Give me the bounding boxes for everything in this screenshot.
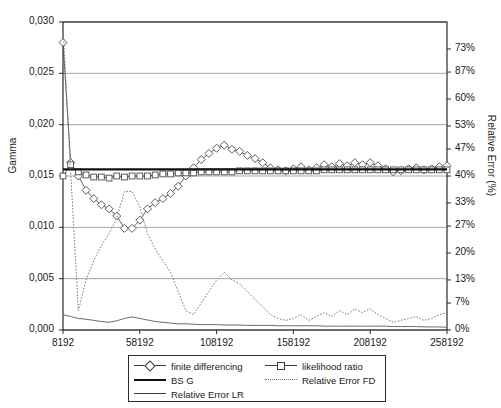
- x-axis-tick-label: 58192: [110, 337, 170, 348]
- x-axis-tick-label: 108192: [187, 337, 247, 348]
- legend-label: Relative Error LR: [171, 389, 244, 400]
- y-axis-right-tick-label: 20%: [455, 246, 495, 257]
- x-axis-tick-label: 158192: [263, 337, 323, 348]
- y-axis-left-tick-label: 0,005: [8, 272, 54, 283]
- data-point-marker: [236, 147, 244, 155]
- data-point-marker: [220, 141, 228, 149]
- data-point-marker: [137, 173, 143, 179]
- legend-key-square-icon: [264, 360, 298, 372]
- data-point-marker: [129, 173, 135, 179]
- legend-label: finite differencing: [171, 361, 243, 372]
- data-point-marker: [366, 159, 374, 167]
- legend-item-relative-error-lr[interactable]: Relative Error LR: [133, 387, 265, 401]
- y-axis-right-tick-label: 33%: [455, 196, 495, 207]
- y-axis-left-tick-label: 0,010: [8, 220, 54, 231]
- legend-row: Relative Error LR: [133, 387, 381, 401]
- legend-item-relative-error-fd[interactable]: Relative Error FD: [264, 373, 381, 387]
- data-point-marker: [168, 171, 174, 177]
- y-axis-left-tick-label: 0,015: [8, 169, 54, 180]
- data-point-marker: [251, 155, 259, 163]
- y-axis-right-tick-label: 47%: [455, 142, 495, 153]
- data-point-marker: [145, 173, 151, 179]
- chart-legend: finite differencing likelihood ratio BS …: [128, 355, 386, 402]
- y-axis-right-tick-label: 13%: [455, 273, 495, 284]
- legend-item-likelihood-ratio[interactable]: likelihood ratio: [264, 359, 381, 373]
- x-axis-tick-label: 8192: [33, 337, 93, 348]
- legend-label: Relative Error FD: [302, 375, 375, 386]
- data-point-marker: [351, 159, 359, 167]
- legend-label: likelihood ratio: [302, 361, 363, 372]
- x-axis-tick-label: 258192: [417, 337, 477, 348]
- data-point-marker: [191, 170, 197, 176]
- legend-key-diamond-icon: [133, 360, 167, 372]
- data-point-marker: [175, 170, 181, 176]
- x-axis-tick-label: 208192: [340, 337, 400, 348]
- y-axis-right-tick-label: 0%: [455, 323, 495, 334]
- data-point-marker: [122, 174, 128, 180]
- y-axis-left-title: Gamma: [7, 121, 18, 191]
- data-point-marker: [259, 159, 267, 167]
- data-point-marker: [99, 174, 105, 180]
- data-point-marker: [160, 171, 166, 177]
- data-point-marker: [243, 151, 251, 159]
- data-point-marker: [106, 175, 112, 181]
- data-point-marker: [213, 144, 221, 152]
- y-axis-left-tick-label: 0,000: [8, 323, 54, 334]
- y-axis-right-tick-label: 53%: [455, 119, 495, 130]
- y-axis-right-tick-label: 60%: [455, 92, 495, 103]
- legend-key-thick-line-icon: [133, 374, 167, 386]
- data-point-marker: [60, 173, 66, 179]
- data-point-marker: [59, 39, 67, 47]
- y-axis-right-tick-label: 87%: [455, 65, 495, 76]
- data-point-marker: [183, 170, 189, 176]
- chart-container: Gamma Relative Error (%) 0,0000,0050,010…: [0, 0, 501, 408]
- y-axis-right-tick-label: 40%: [455, 169, 495, 180]
- data-point-marker: [159, 195, 167, 203]
- legend-row: finite differencing likelihood ratio: [133, 359, 381, 373]
- y-axis-left-tick-label: 0,030: [8, 15, 54, 26]
- legend-key-thin-line-icon: [133, 388, 167, 400]
- y-axis-left-tick-label: 0,025: [8, 66, 54, 77]
- data-point-marker: [91, 174, 97, 180]
- y-axis-right-tick-label: 27%: [455, 219, 495, 230]
- series-line-relative-error-lr: [63, 315, 447, 328]
- legend-key-dotted-line-icon: [264, 374, 298, 386]
- data-point-marker: [120, 224, 128, 232]
- data-point-marker: [83, 172, 89, 178]
- y-axis-left-tick-label: 0,020: [8, 118, 54, 129]
- data-point-marker: [152, 172, 158, 178]
- data-point-marker: [228, 145, 236, 153]
- legend-row: BS G Relative Error FD: [133, 373, 381, 387]
- data-point-marker: [114, 173, 120, 179]
- y-axis-right-tick-label: 73%: [455, 42, 495, 53]
- series-line-finite-differencing: [63, 43, 447, 229]
- y-axis-right-tick-label: 7%: [455, 296, 495, 307]
- legend-label: BS G: [171, 375, 194, 386]
- legend-item-finite-differencing[interactable]: finite differencing: [133, 359, 264, 373]
- legend-item-bs-g[interactable]: BS G: [133, 373, 264, 387]
- data-point-marker: [335, 160, 343, 168]
